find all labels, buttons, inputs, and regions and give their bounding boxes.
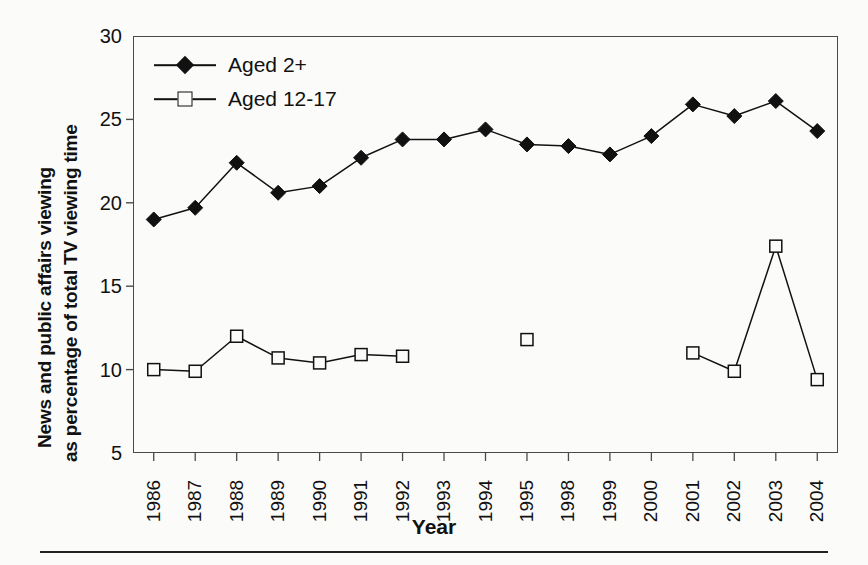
legend-item-aged-2-plus: Aged 2+ [152,48,412,82]
legend-label: Aged 2+ [228,53,307,77]
footer-divider [40,551,828,553]
legend-label: Aged 12-17 [228,87,337,111]
chart-figure: News and public affairs viewing as perce… [0,0,868,565]
x-axis-tick-labels: 1986198719881989199019911992199319941995… [0,0,868,565]
x-axis-title: Year [0,515,868,539]
chart-legend: Aged 2+ Aged 12-17 [152,48,412,116]
legend-item-aged-12-17: Aged 12-17 [152,82,412,116]
open-square-marker-icon [152,88,218,110]
filled-diamond-marker-icon [152,54,218,76]
